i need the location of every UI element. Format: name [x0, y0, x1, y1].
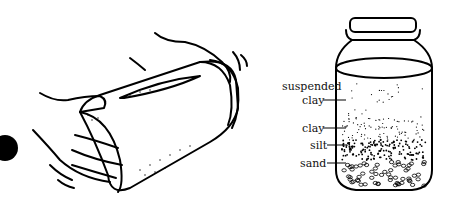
stipple-dot [376, 144, 378, 146]
stipple-dot [383, 133, 384, 134]
stipple-dot [349, 149, 351, 151]
stipple-dot [364, 146, 366, 148]
stipple-dot [380, 144, 382, 146]
stipple-dot [364, 134, 365, 135]
stipple-dot [408, 120, 409, 121]
stipple-dot [382, 123, 383, 124]
jar-lid-top [350, 18, 416, 32]
stipple-dot [361, 154, 363, 156]
sand-pebble [410, 183, 414, 186]
stipple-dot [361, 136, 362, 137]
stipple-dot [419, 144, 421, 146]
stipple-dot [346, 144, 348, 146]
stipple-dot [349, 139, 350, 140]
stipple-dot [361, 113, 362, 114]
stipple-dot [377, 153, 379, 155]
stipple-dot [387, 136, 388, 137]
stipple-dot [417, 141, 419, 143]
stipple-dot [343, 143, 345, 145]
stipple-dot [417, 130, 418, 131]
stipple-dot [422, 157, 424, 159]
stipple-dot [352, 139, 354, 141]
stipple-dot [379, 134, 380, 135]
stipple-dot [351, 90, 352, 91]
stipple-dot [368, 142, 370, 144]
stipple-dot [375, 120, 376, 121]
stipple-dot [424, 141, 426, 143]
stipple-dot [405, 141, 407, 143]
stipple-dot [364, 149, 366, 151]
stipple-dot [385, 144, 387, 146]
stipple-dot [361, 134, 362, 135]
sand-pebble [374, 172, 378, 175]
stipple-dot [384, 127, 385, 128]
stipple-dot [402, 132, 403, 133]
stipple-dot [377, 101, 378, 102]
stipple-dot [397, 137, 398, 138]
stipple-dot [355, 139, 357, 141]
stipple-dot [409, 154, 411, 156]
stipple-dot [344, 131, 345, 132]
stipple-dot [352, 97, 353, 98]
stipple-dot [343, 155, 345, 157]
stipple-dot [416, 158, 418, 160]
shaking-jar-illustration [33, 33, 247, 192]
stipple-dot [380, 139, 382, 141]
stipple-dot [366, 159, 368, 161]
stipple-dot [397, 128, 398, 129]
bullet-dot [0, 135, 18, 161]
stipple-dot [370, 141, 372, 143]
stipple-dot [392, 126, 393, 127]
stipple-dot [387, 93, 388, 94]
stipple-dot [384, 154, 386, 156]
stipple-dot [378, 119, 379, 120]
stipple-dot [364, 151, 366, 153]
stipple-dot [394, 119, 395, 120]
stipple-dot [396, 139, 398, 141]
soil-jar-diagram: suspended clay clay silt sand [0, 0, 454, 206]
stipple-dot [381, 90, 382, 91]
stipple-dot [412, 121, 413, 122]
stipple-dot [400, 153, 402, 155]
stipple-dot [399, 132, 400, 133]
stipple-dot [398, 145, 400, 147]
stipple-dot [421, 139, 423, 141]
stipple-dot [408, 138, 409, 139]
stipple-dot [396, 126, 397, 127]
stipple-dot [349, 151, 351, 153]
stipple-dot [398, 92, 399, 93]
stipple-dot [411, 121, 412, 122]
stipple-dot [380, 142, 382, 144]
stipple-dot [420, 116, 421, 117]
stipple-dot [394, 147, 396, 149]
sand-pebble [401, 177, 405, 180]
stipple-dot [362, 144, 364, 146]
stipple-dot [349, 121, 350, 122]
stipple-dot [370, 159, 372, 161]
stipple-dot [398, 121, 399, 122]
stipple-dot [411, 154, 413, 156]
stipple-dot [398, 153, 400, 155]
stipple-dot [381, 148, 383, 150]
label-suspended-line1: suspended [282, 80, 342, 93]
stipple-dot [367, 155, 369, 157]
stipple-dot [364, 138, 365, 139]
stipple-dot [373, 142, 375, 144]
stipple-dot [378, 128, 379, 129]
stipple-dot [423, 130, 424, 131]
stipple-dot [344, 126, 345, 127]
sand-pebble [401, 164, 405, 167]
stipple-dot [370, 138, 371, 139]
stipple-dot [422, 155, 424, 157]
stipple-dot [410, 151, 412, 153]
stipple-dot [374, 144, 376, 146]
stipple-dot [388, 155, 390, 157]
sand-pebble [416, 178, 420, 181]
stipple-dot [356, 83, 357, 84]
stipple-dot [358, 154, 360, 156]
stipple-dot [378, 136, 379, 137]
stipple-dot [414, 147, 416, 149]
top-hand [155, 33, 230, 82]
sand-pebble [373, 167, 377, 170]
stipple-dot [380, 156, 382, 158]
